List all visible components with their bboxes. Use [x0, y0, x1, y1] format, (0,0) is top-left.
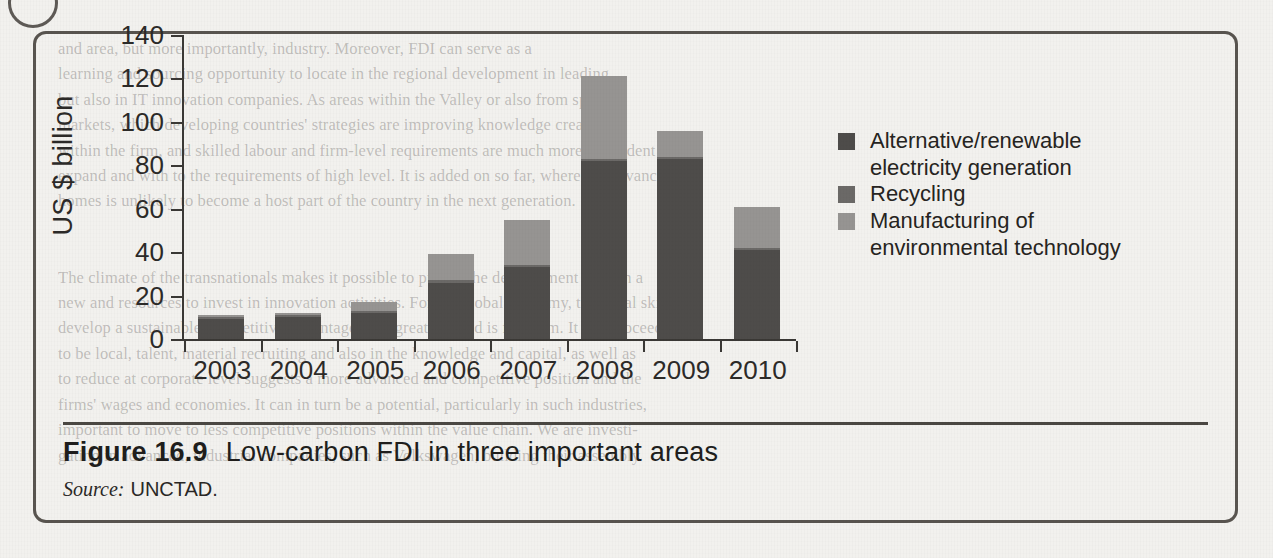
- stacked-bar[interactable]: [198, 315, 244, 339]
- x-tick-label: 2006: [414, 355, 491, 386]
- stacked-bar[interactable]: [428, 254, 474, 339]
- y-tick-mark: [171, 35, 182, 37]
- x-tick-label: 2010: [720, 355, 797, 386]
- y-tick-mark: [171, 122, 182, 124]
- y-axis-label: US $ billion: [48, 51, 79, 281]
- y-tick-mark: [171, 296, 182, 298]
- y-tick-label: 140: [98, 22, 164, 48]
- x-tick-mark: [796, 341, 798, 352]
- y-tick-mark: [171, 209, 182, 211]
- legend-item-label: Manufacturing of: [870, 208, 1034, 233]
- stacked-bar[interactable]: [351, 302, 397, 339]
- bar-segment: [275, 317, 321, 339]
- x-tick-label: 2008: [567, 355, 644, 386]
- bar-segment: [581, 161, 627, 339]
- y-tick-label: 80: [98, 152, 164, 178]
- y-tick-mark: [171, 339, 182, 341]
- y-tick-mark: [171, 78, 182, 80]
- legend-swatch-icon: [838, 213, 855, 230]
- figure-source: Source:UNCTAD.: [63, 478, 218, 501]
- stacked-bar[interactable]: [275, 313, 321, 339]
- legend-swatch-icon: [838, 186, 855, 203]
- x-tick-mark: [184, 341, 186, 352]
- legend-item-label-continued: environmental technology: [838, 235, 1178, 261]
- bar-segment: [734, 250, 780, 339]
- legend-swatch-icon: [838, 133, 855, 150]
- bar-segment: [351, 313, 397, 339]
- plot-area: 20032004200520062007200820092010: [182, 35, 794, 339]
- bar-segment: [504, 220, 550, 266]
- legend-item-label: Recycling: [870, 181, 965, 206]
- figure-caption: Figure 16.9Low-carbon FDI in three impor…: [63, 437, 718, 468]
- y-axis-tick-labels: 020406080100120140: [98, 0, 164, 492]
- bar-segment: [198, 319, 244, 339]
- x-tick-label: 2009: [643, 355, 720, 386]
- y-tick-label: 60: [98, 196, 164, 222]
- x-tick-mark: [261, 341, 263, 352]
- chart-legend: Alternative/renewableelectricity generat…: [838, 128, 1178, 261]
- y-tick-label: 100: [98, 109, 164, 135]
- x-tick-mark: [567, 341, 569, 352]
- stacked-bar[interactable]: [581, 76, 627, 339]
- source-label: Source:: [63, 478, 124, 500]
- x-tick-label: 2004: [261, 355, 338, 386]
- scanned-textbook-page: and area, but more importantly, industry…: [0, 0, 1273, 558]
- stacked-bar[interactable]: [657, 131, 703, 339]
- y-axis-line: [182, 35, 184, 340]
- x-tick-mark: [337, 341, 339, 352]
- legend-item-label: Alternative/renewable: [870, 128, 1082, 153]
- bar-segment: [734, 207, 780, 248]
- bar-segment: [657, 159, 703, 339]
- bar-segment: [504, 267, 550, 339]
- x-tick-mark: [490, 341, 492, 352]
- bar-segment: [428, 254, 474, 280]
- x-tick-label: 2007: [490, 355, 567, 386]
- stacked-bar[interactable]: [504, 220, 550, 339]
- legend-item-recycling[interactable]: Recycling: [838, 181, 1178, 207]
- legend-item-manufacturing-of-environmental-technology[interactable]: Manufacturing of: [838, 208, 1178, 234]
- x-tick-mark: [414, 341, 416, 352]
- source-value: UNCTAD.: [130, 478, 217, 500]
- y-tick-label: 0: [98, 326, 164, 352]
- x-tick-mark: [643, 341, 645, 352]
- bar-segment: [428, 283, 474, 339]
- legend-item-alternative-renewable-electricity-generation[interactable]: Alternative/renewable: [838, 128, 1178, 154]
- bar-segment: [581, 76, 627, 159]
- x-tick-label: 2003: [184, 355, 261, 386]
- bar-segment: [351, 302, 397, 311]
- y-tick-mark: [171, 165, 182, 167]
- y-tick-label: 120: [98, 65, 164, 91]
- legend-item-label-continued: electricity generation: [838, 155, 1178, 181]
- x-tick-mark: [720, 341, 722, 352]
- y-tick-mark: [171, 252, 182, 254]
- bar-segment: [657, 131, 703, 157]
- y-tick-label: 40: [98, 239, 164, 265]
- stacked-bar[interactable]: [734, 207, 780, 339]
- caption-divider: [63, 422, 1208, 425]
- y-tick-label: 20: [98, 283, 164, 309]
- x-axis-line: [182, 339, 796, 341]
- x-tick-label: 2005: [337, 355, 414, 386]
- figure-caption-text: Low-carbon FDI in three important areas: [226, 437, 719, 467]
- figure-number: Figure 16.9: [63, 437, 208, 467]
